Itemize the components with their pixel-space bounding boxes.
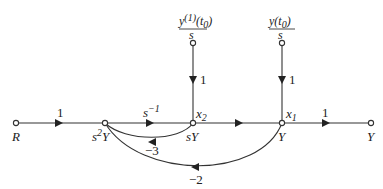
arrow-icon	[235, 119, 243, 127]
gain-s-inverse: s−1	[143, 103, 160, 120]
gain-output: 1	[322, 105, 329, 120]
arrow-icon	[146, 119, 154, 127]
node-y	[279, 120, 284, 125]
gain-minus3: −3	[145, 143, 159, 158]
node-y-output	[368, 120, 373, 125]
ic1-numerator: y(1)(t0)	[178, 12, 212, 30]
label-r: R	[11, 129, 20, 144]
gain-ic1: 1	[200, 72, 207, 87]
signal-flow-graph: R s2Y sY Y Y x2 x1 1 s−1 1 1 1 −3 −2 y(1…	[0, 0, 383, 189]
ic1-denominator: s	[189, 28, 194, 42]
gain-minus2: −2	[189, 172, 203, 187]
node-r	[13, 120, 18, 125]
gain-r-to-s2y: 1	[57, 105, 64, 120]
ic0-denominator: s	[278, 28, 283, 42]
arrow-icon	[189, 76, 197, 84]
label-y-output: Y	[367, 129, 376, 144]
node-sy	[190, 120, 195, 125]
gain-ic0: 1	[289, 72, 296, 87]
label-sy: sY	[186, 129, 200, 144]
label-y: Y	[278, 129, 287, 144]
arrow-icon	[191, 163, 199, 171]
node-s2y	[102, 120, 107, 125]
label-s2y: s2Y	[92, 127, 111, 144]
arrow-icon	[322, 119, 330, 127]
arrow-icon	[278, 76, 286, 84]
label-x2: x2	[195, 106, 207, 123]
label-x1: x1	[285, 106, 297, 123]
arrow-icon	[55, 119, 63, 127]
